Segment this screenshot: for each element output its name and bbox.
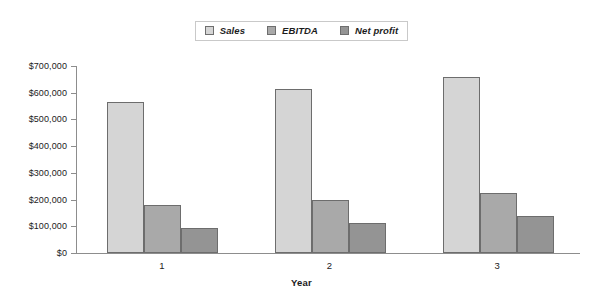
y-tick: [71, 146, 76, 147]
legend-swatch-sales: [205, 26, 214, 35]
bar-group: [443, 66, 554, 253]
bar-ebitda-year-2[interactable]: [312, 200, 349, 253]
y-tick-label: $100,000: [29, 221, 67, 231]
bar-net-profit-year-1[interactable]: [181, 228, 218, 253]
x-tick-label: 3: [495, 260, 500, 271]
legend-label-net-profit: Net profit: [355, 26, 398, 36]
legend-item-ebitda[interactable]: EBITDA: [267, 26, 318, 36]
y-tick-label: $500,000: [29, 114, 67, 124]
y-tick-label: $0: [57, 248, 67, 258]
bar-net-profit-year-2[interactable]: [349, 223, 386, 253]
y-tick-label: $600,000: [29, 88, 67, 98]
bar-group: [275, 66, 386, 253]
y-tick-label: $200,000: [29, 195, 67, 205]
legend-swatch-ebitda: [267, 26, 276, 35]
bar-sales-year-2[interactable]: [275, 89, 312, 253]
legend-item-net-profit[interactable]: Net profit: [340, 26, 398, 36]
y-tick: [71, 226, 76, 227]
y-tick-label: $300,000: [29, 168, 67, 178]
legend-label-sales: Sales: [220, 26, 245, 36]
legend-item-sales[interactable]: Sales: [205, 26, 245, 36]
legend-label-ebitda: EBITDA: [282, 26, 318, 36]
y-tick: [71, 173, 76, 174]
y-tick: [71, 93, 76, 94]
x-axis-title: Year: [0, 277, 603, 288]
y-tick-label: $400,000: [29, 141, 67, 151]
bar-chart: Sales EBITDA Net profit $0$100,000$200,0…: [0, 0, 603, 302]
y-tick-label: $700,000: [29, 61, 67, 71]
bar-ebitda-year-3[interactable]: [480, 193, 517, 253]
bar-sales-year-1[interactable]: [107, 102, 144, 253]
x-tick-label: 1: [159, 260, 164, 271]
y-tick: [71, 200, 76, 201]
plot-area: $0$100,000$200,000$300,000$400,000$500,0…: [76, 66, 580, 253]
bar-net-profit-year-3[interactable]: [517, 216, 554, 253]
bar-groups: [77, 66, 580, 253]
bar-group: [107, 66, 218, 253]
bar-sales-year-3[interactable]: [443, 77, 480, 253]
legend-swatch-net-profit: [340, 26, 349, 35]
bar-ebitda-year-1[interactable]: [144, 205, 181, 253]
y-tick: [71, 66, 76, 67]
legend-box: Sales EBITDA Net profit: [195, 21, 409, 41]
y-tick: [71, 119, 76, 120]
chart-legend: Sales EBITDA Net profit: [0, 21, 603, 41]
y-tick: [71, 253, 76, 254]
x-tick-label: 2: [327, 260, 332, 271]
x-axis-line: [76, 253, 580, 254]
